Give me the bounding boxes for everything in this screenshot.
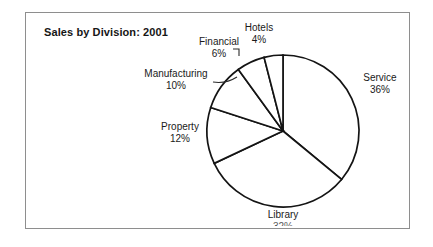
pie-label-manufacturing-name: Manufacturing (134, 68, 218, 80)
pie-label-property: Property 12% (150, 121, 210, 145)
pie-label-library-name: Library (248, 209, 318, 221)
pie-slice-group (207, 55, 359, 207)
pie-label-financial: Financial 6% (188, 36, 250, 60)
pie-label-library-value: 32% (248, 221, 318, 226)
pie-label-property-value: 12% (150, 133, 210, 145)
pie-label-financial-value: 6% (188, 48, 250, 60)
pie-label-library: Library 32% (248, 209, 318, 226)
pie-label-hotels-name: Hotels (233, 22, 285, 34)
pie-label-service-name: Service (352, 72, 408, 84)
pie-label-service: Service 36% (352, 72, 408, 96)
pie-chart-figure: Sales by Division: 2001 Hotels 4% Financ… (0, 0, 433, 247)
pie-label-service-value: 36% (352, 84, 408, 96)
pie-label-manufacturing: Manufacturing 10% (134, 68, 218, 92)
pie-label-manufacturing-value: 10% (134, 80, 218, 92)
pie-label-financial-name: Financial (188, 36, 250, 48)
pie-label-property-name: Property (150, 121, 210, 133)
